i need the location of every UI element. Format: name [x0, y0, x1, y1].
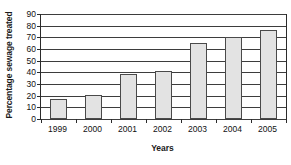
x-tick-label: 2004 — [223, 124, 242, 134]
x-tick-mark — [41, 119, 42, 123]
x-tick-mark — [286, 119, 287, 123]
y-tick-label: 50 — [27, 56, 36, 66]
x-tick-label: 2005 — [258, 124, 277, 134]
bar[interactable] — [50, 99, 68, 119]
y-tick-label: 70 — [27, 32, 36, 42]
y-tick-label: 10 — [27, 102, 36, 112]
y-axis-title-text: Percentage sewage treated — [4, 11, 14, 118]
x-tick-label: 2001 — [118, 124, 137, 134]
bar[interactable] — [85, 95, 103, 120]
bar-slot — [181, 14, 216, 119]
y-axis-title: Percentage sewage treated — [0, 0, 18, 130]
bar[interactable] — [225, 37, 243, 119]
bar-slot — [251, 14, 286, 119]
bar[interactable] — [260, 30, 278, 119]
bar[interactable] — [120, 74, 138, 120]
x-tick-mark — [251, 119, 252, 123]
x-tick-mark — [146, 119, 147, 123]
gridline — [41, 119, 286, 120]
bar-chart: Percentage sewage treated 01020304050607… — [0, 0, 291, 165]
y-tick-label: 30 — [27, 79, 36, 89]
bar-slot — [111, 14, 146, 119]
y-tick-label: 20 — [27, 91, 36, 101]
y-axis-tick-labels: 0102030405060708090 — [18, 14, 38, 119]
x-axis-tick-labels: 1999200020012002200320042005 — [40, 124, 285, 138]
bar-slot — [216, 14, 251, 119]
x-tick-label: 2000 — [83, 124, 102, 134]
x-tick-label: 2002 — [153, 124, 172, 134]
x-tick-mark — [111, 119, 112, 123]
x-tick-mark — [76, 119, 77, 123]
y-tick-label: 90 — [27, 9, 36, 19]
bar-slot — [41, 14, 76, 119]
x-tick-label: 2003 — [188, 124, 207, 134]
bar-slot — [146, 14, 181, 119]
bars-layer — [41, 14, 286, 119]
x-tick-mark — [181, 119, 182, 123]
bar[interactable] — [155, 71, 173, 119]
bar[interactable] — [190, 43, 208, 119]
y-tick-label: 0 — [31, 114, 36, 124]
y-tick-label: 40 — [27, 67, 36, 77]
x-tick-label: 1999 — [48, 124, 67, 134]
y-tick-label: 60 — [27, 44, 36, 54]
x-axis-title: Years — [40, 143, 285, 153]
plot-area — [40, 14, 287, 120]
bar-slot — [76, 14, 111, 119]
y-tick-label: 80 — [27, 21, 36, 31]
x-tick-mark — [216, 119, 217, 123]
